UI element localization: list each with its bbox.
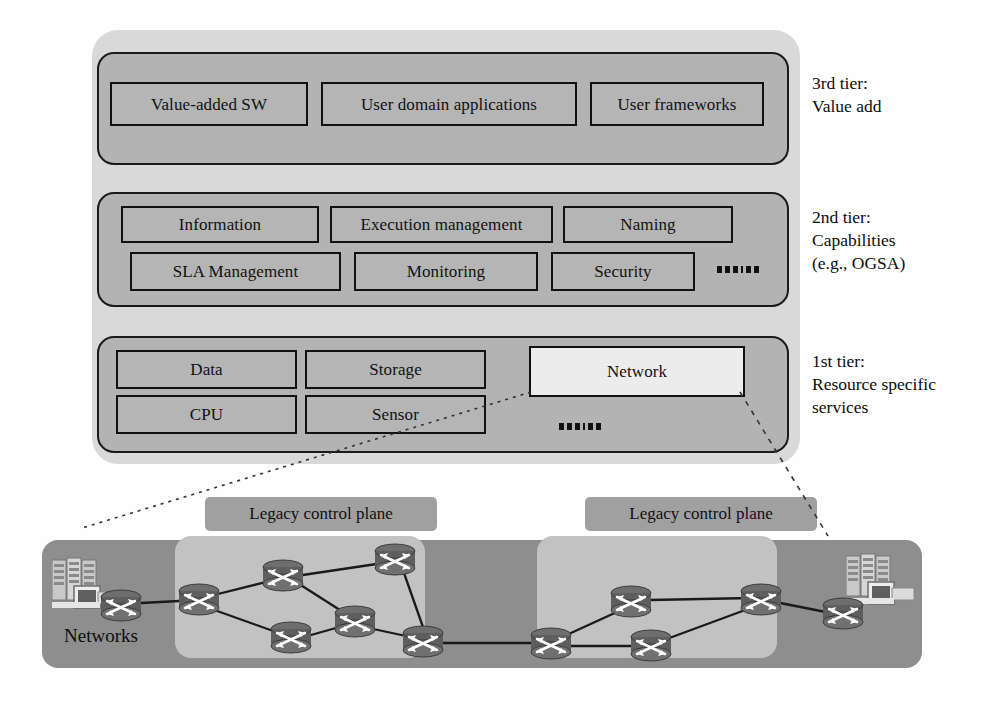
tier-1-ellipsis-icon bbox=[559, 423, 601, 430]
service-box-sla-management[interactable]: SLA Management bbox=[130, 252, 341, 291]
control-plane-zone-left bbox=[175, 536, 425, 658]
service-box-sensor[interactable]: Sensor bbox=[305, 395, 486, 434]
diagram-canvas: Value-added SW User domain applications … bbox=[0, 0, 982, 709]
service-box-cpu[interactable]: CPU bbox=[116, 395, 297, 434]
service-box-security[interactable]: Security bbox=[551, 252, 695, 291]
service-box-value-added-sw[interactable]: Value-added SW bbox=[110, 82, 308, 126]
tier-2-container: Information Execution management Naming … bbox=[97, 192, 789, 307]
tier-3-container: Value-added SW User domain applications … bbox=[97, 52, 789, 165]
service-box-data[interactable]: Data bbox=[116, 350, 297, 389]
tier-1-label: 1st tier: Resource specific services bbox=[812, 350, 936, 419]
networks-panel bbox=[42, 540, 922, 668]
service-box-network[interactable]: Network bbox=[529, 346, 745, 397]
tier-1-container: Data Storage Network CPU Sensor bbox=[97, 336, 789, 453]
control-plane-zone-right bbox=[537, 536, 777, 658]
service-box-user-frameworks[interactable]: User frameworks bbox=[590, 82, 764, 126]
service-box-monitoring[interactable]: Monitoring bbox=[354, 252, 538, 291]
service-box-naming[interactable]: Naming bbox=[563, 206, 733, 243]
service-box-user-domain-applications[interactable]: User domain applications bbox=[321, 82, 577, 126]
tier-2-ellipsis-icon bbox=[717, 266, 759, 273]
service-box-execution-management[interactable]: Execution management bbox=[330, 206, 553, 243]
legacy-control-plane-label-left: Legacy control plane bbox=[205, 497, 437, 531]
networks-label: Networks bbox=[64, 625, 138, 647]
tier-2-label: 2nd tier: Capabilities (e.g., OGSA) bbox=[812, 206, 905, 275]
service-box-information[interactable]: Information bbox=[121, 206, 319, 243]
legacy-control-plane-label-right: Legacy control plane bbox=[585, 497, 817, 531]
service-box-storage[interactable]: Storage bbox=[305, 350, 486, 389]
tier-3-label: 3rd tier: Value add bbox=[812, 72, 882, 118]
